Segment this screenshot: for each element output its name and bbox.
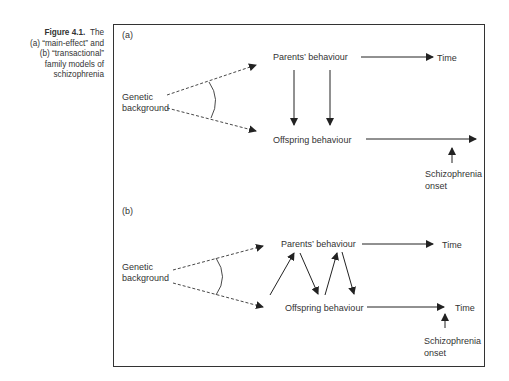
dashed-arrow-up <box>173 246 263 270</box>
genetic-label-a2: background <box>122 103 169 113</box>
time-label-b-bottom: Time <box>455 303 475 313</box>
time-label-a: Time <box>437 53 457 63</box>
offspring-label-a: Offspring behaviour <box>273 135 351 145</box>
offspring-to-parent-arrow <box>325 253 337 295</box>
panel-a: (a) Genetic background Parents’ behaviou… <box>122 30 482 191</box>
panel-b: (b) Genetic background Parents’ behaviou… <box>122 206 481 358</box>
parents-label-b: Parents’ behaviour <box>281 239 356 249</box>
onset-label-b2: onset <box>424 348 447 358</box>
offspring-label-b: Offspring behaviour <box>285 303 363 313</box>
angle-arc <box>209 82 216 118</box>
dashed-arrow-down <box>167 108 256 131</box>
angle-arc <box>216 258 223 295</box>
onset-label-a2: onset <box>425 181 448 191</box>
time-label-b-top: Time <box>442 240 462 250</box>
offspring-to-parent-arrow <box>270 253 294 295</box>
onset-label-a: Schizophrenia <box>425 169 482 179</box>
dashed-arrow-down <box>173 283 263 307</box>
genetic-label-b2: background <box>122 273 169 283</box>
diagram-canvas: (a) Genetic background Parents’ behaviou… <box>0 0 509 381</box>
genetic-label-a: Genetic <box>122 92 154 102</box>
panel-b-label: (b) <box>122 206 133 216</box>
dashed-arrow-up <box>167 65 256 95</box>
onset-label-b: Schizophrenia <box>424 336 481 346</box>
parent-to-offspring-arrow <box>300 253 318 294</box>
panel-a-label: (a) <box>122 30 133 40</box>
parent-to-offspring-arrow <box>342 252 354 294</box>
genetic-label-b: Genetic <box>122 262 154 272</box>
parents-label-a: Parents’ behaviour <box>273 52 348 62</box>
